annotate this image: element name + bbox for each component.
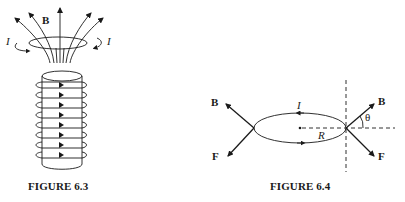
- theta-arc: [360, 116, 363, 128]
- figure-6-4-loop: [226, 80, 395, 172]
- label-field-B: B: [42, 14, 50, 26]
- caption-figure-6-3: FIGURE 6.3: [28, 180, 88, 192]
- label-right-B: B: [378, 95, 386, 107]
- caption-figure-6-4: FIGURE 6.4: [270, 180, 330, 192]
- current-arrow-left-icon: [15, 43, 28, 51]
- diagram-canvas: B I I B F I R B F θ: [0, 0, 405, 202]
- label-theta: θ: [365, 111, 370, 123]
- label-current-I: I: [296, 99, 302, 111]
- label-current-right: I: [106, 35, 112, 47]
- label-right-F: F: [378, 150, 385, 162]
- field-lines-icon: [15, 8, 103, 63]
- solenoid-top: [42, 71, 82, 81]
- left-F-arrow-icon: [228, 128, 254, 156]
- left-B-arrow-icon: [226, 104, 254, 128]
- coil-arrows-icon: [59, 82, 64, 158]
- solenoid-bottom: [42, 164, 82, 169]
- current-loop-ring: [29, 37, 87, 49]
- label-left-F: F: [212, 150, 219, 162]
- figure-6-3-solenoid: [15, 8, 103, 169]
- label-radius-R: R: [317, 129, 325, 141]
- label-left-B: B: [211, 96, 219, 108]
- current-arrow-right-icon: [95, 38, 101, 48]
- label-current-left: I: [5, 35, 11, 47]
- right-F-arrow-icon: [346, 128, 374, 156]
